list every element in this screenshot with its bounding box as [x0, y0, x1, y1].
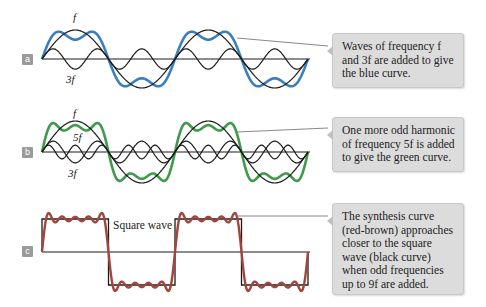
connector-a	[237, 38, 328, 46]
panel-label-b: b	[22, 147, 33, 158]
panel-label-c: c	[22, 246, 33, 257]
callout-a: Waves of frequency f and 3f are added to…	[332, 33, 464, 88]
connector-b	[237, 128, 328, 132]
label-f-a: f	[73, 11, 78, 23]
label-3f-b: 3f	[67, 167, 79, 179]
callout-c: The synthesis curve (red-brown) approach…	[332, 203, 464, 295]
label-5f-b: 5f	[73, 131, 84, 143]
panel-label-a: a	[22, 54, 33, 65]
label-f-b: f	[73, 107, 78, 119]
label-3f-a: 3f	[65, 73, 77, 85]
callout-b: One more odd harmonic of frequency 5f is…	[332, 117, 464, 172]
square-wave-label: Square wave	[113, 219, 172, 232]
panel-a-graph	[42, 30, 310, 88]
panel-c-graph	[42, 213, 310, 291]
